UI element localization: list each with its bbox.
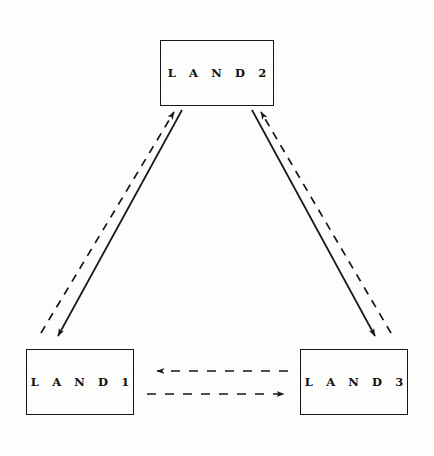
edge-land3-to-land2 [261,112,391,333]
node-land1-label: L A N D 1 [26,375,134,389]
node-land2[interactable]: L A N D 2 [160,40,274,106]
node-land1[interactable]: L A N D 1 [26,349,134,415]
edge-land2-to-land1 [58,110,182,336]
diagram-page: L A N D 2 L A N D 1 L A N D 3 [0,0,434,456]
node-land3-label: L A N D 3 [300,375,408,389]
edge-land1-to-land2 [41,112,174,333]
edge-land2-to-land3 [252,110,375,336]
node-land3[interactable]: L A N D 3 [300,349,408,415]
node-land2-label: L A N D 2 [163,66,271,80]
